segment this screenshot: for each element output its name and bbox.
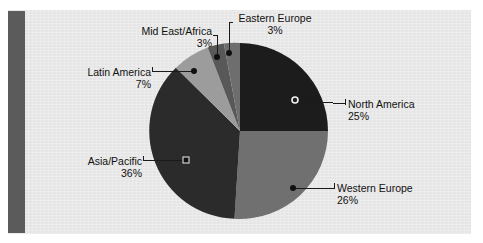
marker-western-europe — [290, 185, 296, 191]
slice-label-western-europe-value: 26% — [337, 194, 413, 206]
slice-label-eastern-europe-name: Eastern Europe — [239, 12, 312, 24]
slice-label-asia-pacific-name: Asia/Pacific — [88, 155, 142, 167]
slice-label-western-europe-name: Western Europe — [337, 182, 413, 194]
slice-label-latin-america-name: Latin America — [87, 66, 151, 78]
marker-north-america — [292, 97, 298, 103]
marker-eastern-europe — [226, 50, 232, 56]
slice-label-eastern-europe: Eastern Europe 3% — [232, 12, 318, 36]
chart-page: North America 25% Western Europe 26% Asi… — [0, 0, 483, 243]
slice-label-asia-pacific-value: 36% — [60, 167, 142, 179]
pie-chart: North America 25% Western Europe 26% Asi… — [0, 0, 483, 243]
pie-slice-north-america[interactable] — [240, 43, 328, 131]
slice-label-north-america-name: North America — [348, 98, 415, 110]
slice-label-mid-east-africa: Mid East/Africa 3% — [122, 25, 212, 49]
slice-label-latin-america-value: 7% — [62, 78, 151, 90]
slice-label-north-america-value: 25% — [348, 110, 415, 122]
slice-label-latin-america: Latin America 7% — [62, 66, 151, 90]
slice-label-north-america: North America 25% — [348, 98, 415, 122]
slice-label-eastern-europe-value: 3% — [232, 24, 318, 36]
slice-label-mid-east-africa-name: Mid East/Africa — [141, 25, 212, 37]
pie-slice-western-europe[interactable] — [234, 131, 328, 219]
marker-latin-america — [191, 68, 197, 74]
slice-label-asia-pacific: Asia/Pacific 36% — [60, 155, 142, 179]
marker-mid-east-africa — [214, 54, 220, 60]
pie-slices — [149, 43, 328, 219]
slice-label-western-europe: Western Europe 26% — [337, 182, 413, 206]
slice-label-mid-east-africa-value: 3% — [122, 37, 212, 49]
marker-asia-pacific — [183, 157, 189, 163]
